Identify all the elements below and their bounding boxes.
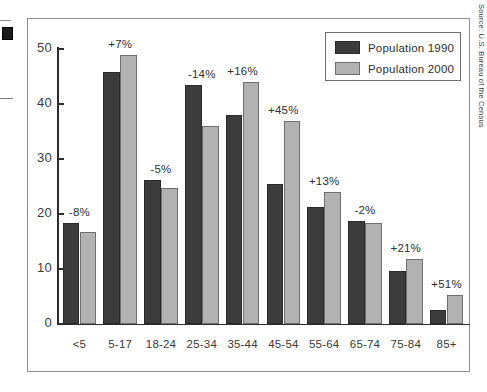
bar-population-1990 <box>103 72 120 324</box>
bar-population-2000 <box>243 82 260 324</box>
bar-change-annotation: +16% <box>214 65 272 77</box>
bar-population-2000 <box>447 295 464 324</box>
bar-population-1990 <box>226 115 243 324</box>
bar-population-2000 <box>202 126 219 324</box>
y-axis-tick-label: 30 <box>6 150 52 165</box>
x-axis-label: 85+ <box>418 338 476 350</box>
bar-population-2000 <box>161 188 178 324</box>
chart-legend: Population 1990Population 2000 <box>325 32 461 81</box>
legend-label: Population 1990 <box>368 42 454 54</box>
bar-change-annotation: -2% <box>336 204 394 216</box>
y-axis-tick <box>57 103 64 105</box>
bar-population-1990 <box>267 184 284 324</box>
y-axis-tick-label: 0 <box>6 315 52 330</box>
bar-change-annotation: +13% <box>295 175 353 187</box>
bar-change-annotation: +21% <box>377 242 435 254</box>
bar-change-annotation: +45% <box>254 104 312 116</box>
legend-swatch-icon <box>335 62 360 75</box>
bar-population-1990 <box>348 221 365 324</box>
y-axis-tick <box>57 48 64 50</box>
y-axis-tick-label: 40 <box>6 95 52 110</box>
bar-population-1990 <box>185 85 202 324</box>
bar-change-annotation: -5% <box>132 163 190 175</box>
bar-population-1990 <box>307 207 324 324</box>
bar-population-2000 <box>284 121 301 324</box>
bar-change-annotation: +51% <box>418 278 476 290</box>
bar-population-2000 <box>365 223 382 324</box>
bar-population-1990 <box>389 271 406 324</box>
legend-label: Population 2000 <box>368 63 454 75</box>
bar-change-annotation: +7% <box>91 38 149 50</box>
bar-change-annotation: -8% <box>50 206 108 218</box>
y-axis-tick <box>57 158 64 160</box>
y-axis-tick-label: 50 <box>6 40 52 55</box>
bar-population-2000 <box>120 55 137 325</box>
y-axis-line <box>57 47 59 325</box>
legend-item: Population 2000 <box>335 62 454 75</box>
bar-population-1990 <box>144 180 161 324</box>
bar-population-2000 <box>80 232 97 324</box>
legend-item: Population 1990 <box>335 41 454 54</box>
legend-swatch-icon <box>335 41 360 54</box>
y-axis-tick-label: 20 <box>6 205 52 220</box>
y-axis-tick-label: 10 <box>6 260 52 275</box>
bar-population-1990 <box>430 310 447 324</box>
bar-population-1990 <box>63 223 80 324</box>
bar-population-2000 <box>406 259 423 324</box>
